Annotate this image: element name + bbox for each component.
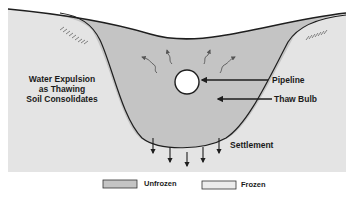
water-expulsion-line-1: Water Expulsion [22, 74, 102, 84]
legend-label-frozen: Frozen [241, 179, 266, 191]
legend-swatch-frozen [202, 181, 236, 189]
water-expulsion-line-2: as Thawing [22, 84, 102, 94]
thaw-settlement-diagram: Water Expulsion as Thawing Soil Consolid… [0, 0, 358, 203]
water-expulsion-label: Water Expulsion as Thawing Soil Consolid… [22, 74, 102, 104]
thaw-bulb-label: Thaw Bulb [274, 94, 317, 104]
settlement-label: Settlement [230, 140, 273, 150]
pipeline-circle [175, 70, 199, 94]
water-expulsion-line-3: Soil Consolidates [22, 94, 102, 104]
legend-label-unfrozen: Unfrozen [144, 178, 177, 190]
legend-swatch-unfrozen [103, 180, 137, 188]
pipeline-label: Pipeline [272, 75, 305, 85]
